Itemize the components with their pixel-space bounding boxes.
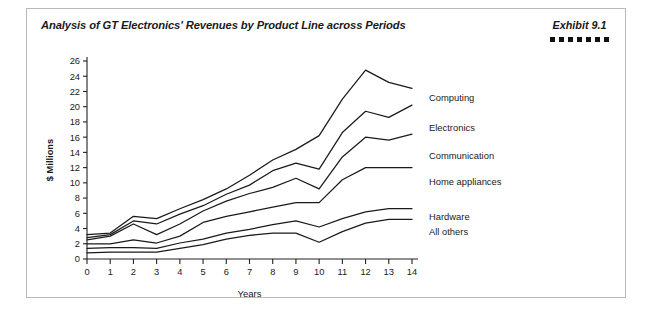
y-tick-label: 6 — [75, 209, 80, 219]
series-line-computing — [87, 70, 412, 234]
exhibit-card: Analysis of GT Electronics' Revenues by … — [26, 8, 626, 298]
y-tick-label: 12 — [70, 163, 80, 173]
x-tick-label: 9 — [293, 267, 298, 277]
series-label-home-appliances: Home appliances — [429, 176, 502, 187]
series-label-group: ComputingElectronicsCommunicationHome ap… — [429, 92, 502, 237]
x-tick-label: 10 — [314, 267, 324, 277]
y-tick-label: 14 — [70, 148, 80, 158]
series-label-electronics: Electronics — [429, 122, 475, 133]
x-tick-label: 13 — [384, 267, 394, 277]
x-tick-label: 12 — [360, 267, 370, 277]
series-label-all-others: All others — [429, 226, 468, 237]
x-tick-label: 2 — [131, 267, 136, 277]
series-label-computing: Computing — [429, 92, 474, 103]
x-tick-label: 6 — [224, 267, 229, 277]
chart-plot-area: 02468101214161820222426 0123456789101112… — [27, 9, 627, 299]
y-tick-label: 24 — [70, 72, 80, 82]
series-line-hardware — [87, 209, 412, 249]
y-tick-label: 18 — [70, 117, 80, 127]
x-tick-label: 14 — [407, 267, 417, 277]
y-tick-label: 10 — [70, 178, 80, 188]
x-tick-label: 11 — [338, 267, 348, 277]
series-line-home-appliances — [87, 168, 412, 244]
y-tick-label: 8 — [75, 193, 80, 203]
series-group — [87, 70, 412, 253]
y-tick-label: 2 — [75, 239, 80, 249]
y-axis-title: $ Millions — [45, 139, 55, 181]
y-tick-label: 20 — [70, 102, 80, 112]
x-tick-label: 3 — [154, 267, 159, 277]
series-label-communication: Communication — [429, 150, 494, 161]
x-tick-label: 4 — [177, 267, 182, 277]
series-line-electronics — [87, 105, 412, 238]
series-label-hardware: Hardware — [429, 211, 470, 222]
y-tick-label: 26 — [70, 56, 80, 66]
x-tick-label: 5 — [200, 267, 205, 277]
x-tick-label: 7 — [247, 267, 252, 277]
y-axis: 02468101214161820222426 — [70, 56, 87, 264]
y-tick-label: 4 — [75, 224, 80, 234]
y-tick-label: 22 — [70, 87, 80, 97]
x-axis: 01234567891011121314 — [84, 259, 418, 277]
x-axis-title: Years — [238, 288, 262, 299]
x-tick-label: 0 — [84, 267, 89, 277]
y-tick-label: 16 — [70, 133, 80, 143]
line-chart-svg: 02468101214161820222426 0123456789101112… — [27, 9, 627, 299]
y-tick-label: 0 — [75, 254, 80, 264]
x-tick-label: 8 — [270, 267, 275, 277]
x-tick-label: 1 — [108, 267, 113, 277]
